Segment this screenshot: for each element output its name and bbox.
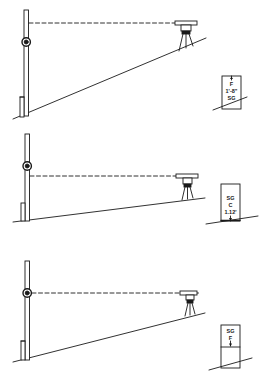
panel-3 bbox=[13, 261, 252, 370]
level-rod bbox=[20, 10, 29, 117]
surveyor-level-icon bbox=[180, 291, 197, 316]
rod-target-icon bbox=[23, 162, 31, 170]
level-rod bbox=[21, 261, 30, 360]
panel-2 bbox=[13, 134, 258, 224]
stake-label: SG bbox=[228, 95, 236, 101]
ground-line bbox=[13, 313, 205, 362]
leveling-diagram: F 1'-8" SG SG C 1.12' SG F bbox=[0, 0, 268, 380]
ground-line bbox=[13, 198, 205, 222]
ground-line bbox=[13, 38, 206, 119]
level-rod bbox=[21, 134, 30, 221]
rod-target-icon bbox=[22, 38, 30, 46]
surveyor-level-icon bbox=[175, 21, 197, 51]
stake-label: 1'-8" bbox=[226, 88, 238, 94]
stake-label: SG bbox=[227, 328, 235, 334]
rod-target-icon bbox=[23, 289, 31, 297]
stake-label: 1.12' bbox=[224, 209, 237, 215]
panel-1 bbox=[13, 10, 247, 119]
stake-label: C bbox=[229, 202, 233, 208]
surveyor-level-icon bbox=[176, 174, 198, 200]
stake-label: SG bbox=[227, 195, 235, 201]
